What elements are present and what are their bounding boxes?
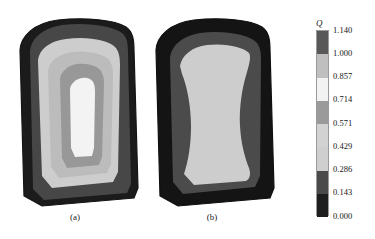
colorbar-tick-7: 0.143: [333, 188, 352, 197]
panel-caption-b: (b): [192, 212, 232, 222]
colorbar-tick-labels: 1.1401.0000.8570.7140.5710.4290.2860.143…: [331, 30, 373, 216]
colorbar-strip: [316, 30, 329, 216]
colorbar-band-0: [317, 31, 328, 54]
colorbar-tick-6: 0.286: [333, 165, 352, 174]
colorbar-band-1: [317, 54, 328, 77]
contour-bands-a: [14, 16, 142, 210]
colorbar-band-3: [317, 101, 328, 124]
contour-band-a-5: [70, 78, 95, 157]
scan-artifact-text: · ·· · ···· ·· ·· ···: [45, 0, 245, 6]
figure-container: · ·· · ···· ·· ·· ···: [0, 0, 375, 239]
contour-panel-a: [14, 16, 142, 210]
colorbar-band-2: [317, 78, 328, 101]
colorbar-tick-3: 0.714: [333, 95, 352, 104]
colorbar-tick-2: 0.857: [333, 72, 352, 81]
colorbar-tick-8: 0.000: [333, 212, 352, 221]
contour-bands-b: [150, 16, 278, 210]
contour-panel-b: [150, 16, 278, 210]
colorbar-tick-5: 0.429: [333, 142, 352, 151]
contour-plot-a: [14, 16, 142, 210]
colorbar-tick-4: 0.571: [333, 119, 352, 128]
colorbar-band-6: [317, 171, 328, 194]
colorbar-tick-1: 1.000: [333, 49, 352, 58]
colorbar-tick-0: 1.140: [333, 26, 352, 35]
panel-caption-a: (a): [55, 212, 95, 222]
contour-plot-b: [150, 16, 278, 210]
colorbar-band-7: [317, 194, 328, 217]
colorbar-band-4: [317, 124, 328, 147]
colorbar: Q 1.1401.0000.8570.7140.5710.4290.2860.1…: [312, 18, 374, 224]
colorbar-band-5: [317, 147, 328, 170]
colorbar-title: Q: [316, 18, 323, 28]
